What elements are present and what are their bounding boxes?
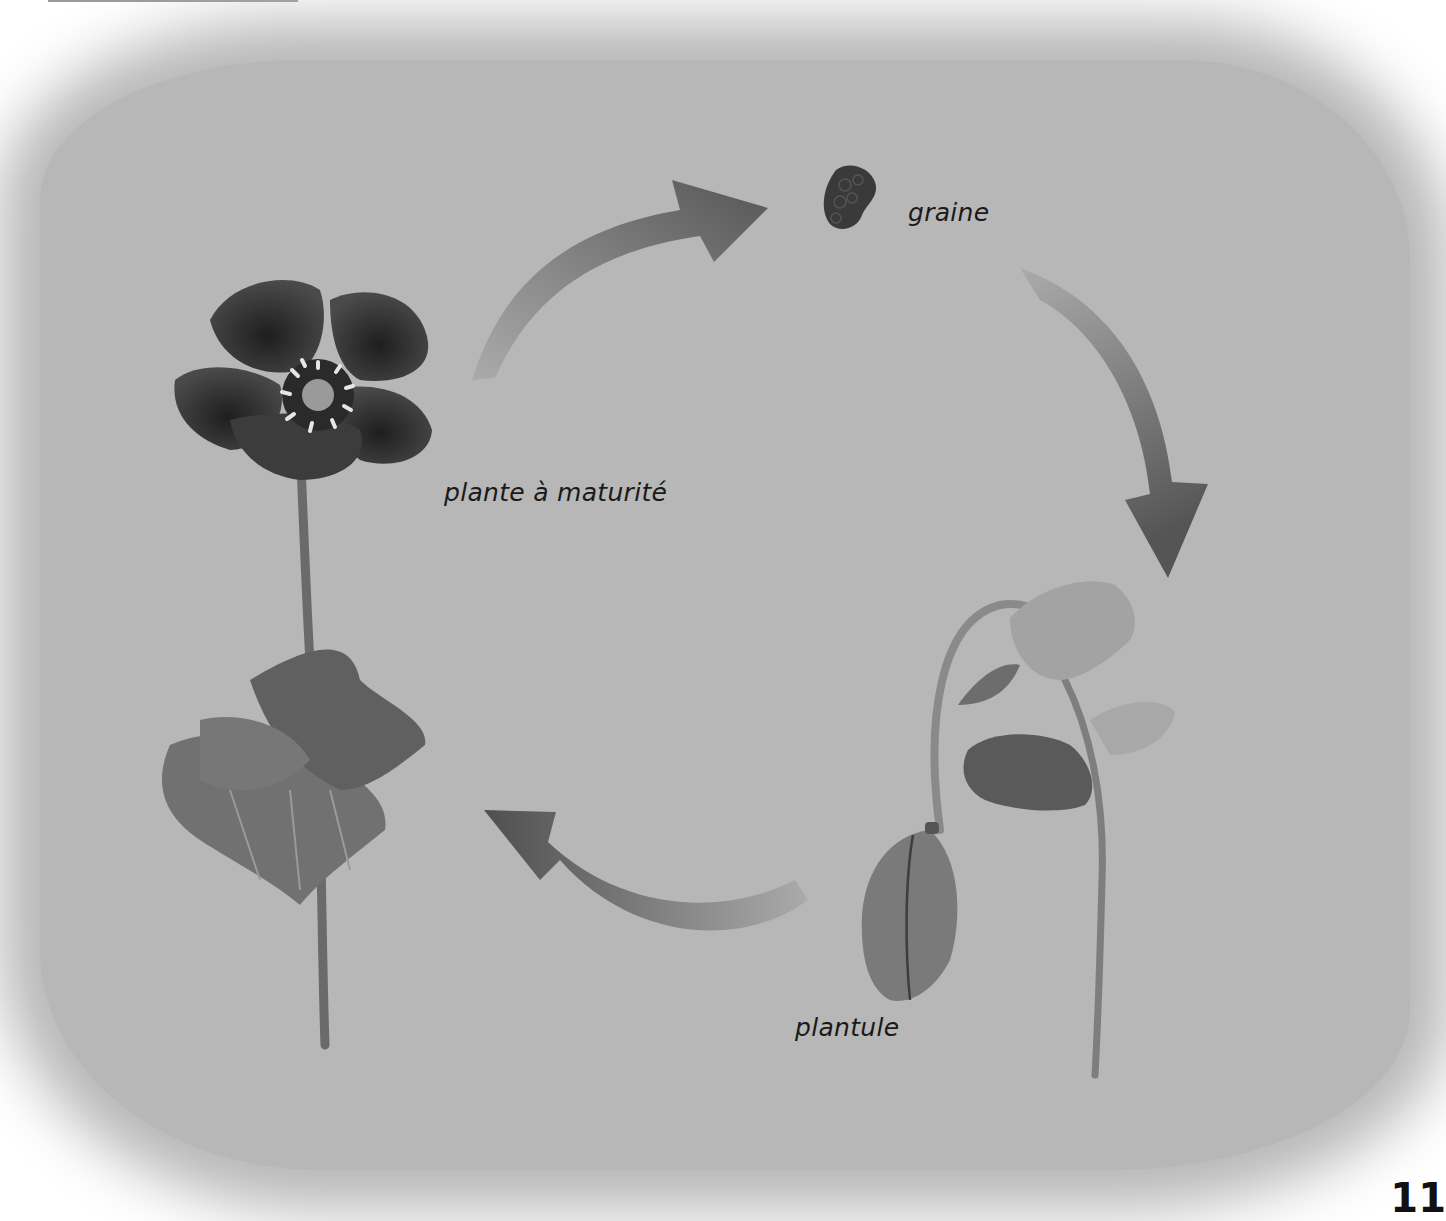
arrow-seedling-to-mature [484,810,808,931]
arrow-seed-to-seedling [1020,268,1208,578]
arrow-mature-to-seed [472,180,768,380]
label-graine: graine [908,198,989,227]
label-plante-a-maturite: plante à maturité [444,478,667,507]
label-plantule: plantule [795,1013,899,1042]
page-number: 11 [1390,1178,1446,1218]
seedling-illustration [862,581,1175,1075]
seed-illustration [824,166,876,229]
mature-plant-illustration [162,280,432,1045]
